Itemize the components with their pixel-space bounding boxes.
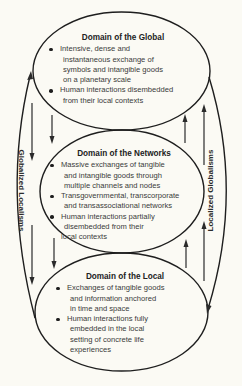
label-localized-globalisms: Localized Globalisms bbox=[206, 141, 215, 241]
domain-global-bullet-1: Intensive, dense and instantaneous excha… bbox=[48, 44, 198, 85]
domain-networks-title: Domain of the Networks bbox=[49, 149, 199, 159]
domain-local-bullet-1: Exchanges of tangible goods and informat… bbox=[55, 283, 195, 314]
right-arc-arrowhead-icon bbox=[206, 304, 212, 314]
domain-networks-bullet-3: Human interactions partially disembedded… bbox=[49, 212, 199, 243]
label-globalized-localisms: Globalized Localisms bbox=[17, 141, 26, 241]
domain-networks: Domain of the Networks Massive exchanges… bbox=[49, 149, 199, 243]
domain-global-bullet-2: Human interactions disembedded from thei… bbox=[48, 85, 198, 106]
domain-local: Domain of the Local Exchanges of tangibl… bbox=[55, 272, 195, 355]
domain-local-bullet-2: Human interactions fully embedded in the… bbox=[55, 314, 195, 355]
domain-local-title: Domain of the Local bbox=[55, 272, 195, 282]
domain-global: Domain of the Global Intensive, dense an… bbox=[48, 33, 198, 106]
left-arc-arrowhead-icon bbox=[27, 71, 33, 80]
domain-global-title: Domain of the Global bbox=[48, 33, 198, 43]
domain-networks-bullet-1: Massive exchanges of tangible and intang… bbox=[49, 160, 199, 191]
domain-networks-bullet-2: Transgovernmental, transcorporate and tr… bbox=[49, 191, 199, 212]
